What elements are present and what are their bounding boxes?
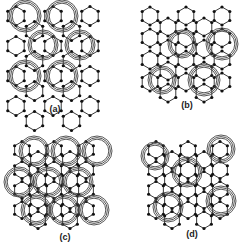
sextet-ring [84, 138, 111, 165]
atom-node [177, 63, 180, 66]
atom-node [202, 227, 205, 230]
atom-node [6, 19, 9, 22]
atom-node [78, 64, 81, 67]
atom-node [228, 19, 231, 22]
sextet-ring [24, 198, 48, 222]
atom-node [166, 56, 169, 59]
atom-node [77, 184, 80, 187]
atom-node [141, 10, 144, 13]
atom-node [60, 204, 63, 207]
atom-node [92, 204, 95, 207]
atom-node [195, 194, 198, 197]
atom-node [166, 16, 169, 19]
atom-node [177, 19, 180, 22]
atom-node [41, 25, 44, 28]
atom-node [43, 10, 46, 13]
atom-node [36, 207, 39, 210]
atom-node [213, 41, 216, 44]
sextet-ring [49, 195, 79, 225]
atom-node [13, 164, 16, 167]
atom-node [220, 49, 223, 52]
atom-node [202, 38, 205, 41]
atom-node [60, 79, 63, 82]
atom-node [20, 197, 23, 200]
atom-node [218, 177, 221, 180]
sextet-ring [85, 139, 109, 163]
atom-node [202, 16, 205, 19]
atom-node [184, 45, 187, 48]
atom-node [60, 40, 63, 43]
atom-node [228, 76, 231, 79]
atom-node [88, 114, 91, 117]
panel-b-lattice [141, 5, 238, 103]
atom-node [186, 200, 189, 203]
atom-node [147, 193, 150, 196]
atom-node [62, 85, 65, 88]
atom-node [6, 10, 9, 13]
atom-node [220, 45, 223, 48]
atom-node [78, 85, 81, 88]
atom-node [78, 124, 81, 127]
atom-node [80, 79, 83, 82]
atom-node [141, 85, 144, 88]
atom-node [41, 94, 44, 97]
atom-node [159, 43, 162, 46]
atom-node [43, 70, 46, 73]
atom-node [6, 40, 9, 43]
atom-node [218, 200, 221, 203]
atom-node [213, 76, 216, 79]
sextet-ring [153, 192, 183, 222]
atom-node [13, 184, 16, 187]
atom-node [147, 184, 150, 187]
atom-node [88, 5, 91, 8]
atom-node [43, 40, 46, 43]
atom-node [163, 223, 166, 226]
atom-node [179, 144, 182, 147]
atom-node [226, 173, 229, 176]
atom-node [141, 76, 144, 79]
sextet-ring [22, 139, 46, 163]
atom-node [211, 173, 214, 176]
atom-node [202, 60, 205, 63]
atom-node [213, 10, 216, 13]
atom-node [202, 100, 205, 103]
atom-node [163, 174, 166, 177]
atom-node [186, 197, 189, 200]
atom-node [84, 177, 87, 180]
sextet-ring [82, 136, 112, 166]
atom-node [141, 63, 144, 66]
atom-node [70, 110, 73, 113]
atom-node [6, 70, 9, 73]
atom-node [25, 34, 28, 37]
atom-node [88, 24, 91, 27]
atom-node [166, 34, 169, 37]
atom-node [80, 49, 83, 52]
atom-node [177, 85, 180, 88]
sextet-ring [52, 198, 76, 222]
atom-node [23, 40, 26, 43]
atom-node [60, 49, 63, 52]
atom-node [195, 214, 198, 217]
atom-node [14, 114, 17, 117]
atom-node [177, 41, 180, 44]
atom-node [148, 23, 151, 26]
atom-node [77, 173, 80, 176]
atom-node [202, 78, 205, 81]
sextet-ring [6, 169, 33, 196]
atom-node [97, 109, 100, 112]
atom-node [6, 109, 9, 112]
atom-node [195, 223, 198, 226]
atom-node [220, 89, 223, 92]
atom-node [36, 150, 39, 153]
atom-node [25, 94, 28, 97]
atom-node [51, 95, 54, 98]
atom-node [41, 85, 44, 88]
atom-node [192, 54, 195, 57]
atom-node [97, 19, 100, 22]
atom-node [43, 19, 46, 22]
atom-node [213, 63, 216, 66]
atom-node [154, 160, 157, 163]
sextet-ring [49, 3, 75, 29]
atom-node [184, 49, 187, 52]
atom-node [184, 5, 187, 8]
